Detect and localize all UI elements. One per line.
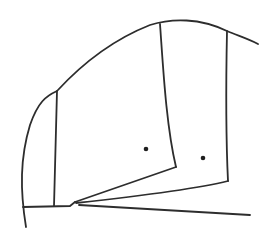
right-blade-lower-edge	[76, 181, 228, 203]
marked-point-left	[144, 147, 149, 152]
diagram-page	[0, 0, 279, 239]
right-chord	[226, 31, 228, 181]
baseline-left-segment	[23, 202, 75, 207]
fan-line-diagram	[0, 0, 279, 239]
middle-chord	[160, 24, 176, 167]
left-chord	[54, 91, 57, 206]
long-bottom-line	[79, 205, 250, 215]
marked-point-right	[201, 156, 206, 161]
